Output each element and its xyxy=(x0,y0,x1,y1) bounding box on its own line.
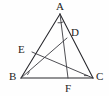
cevian-EC xyxy=(32,52,93,78)
geometry-canvas xyxy=(0,0,109,96)
vertex-label-A: A xyxy=(56,1,64,12)
side-AB xyxy=(21,14,60,78)
cevian-BD xyxy=(21,38,67,78)
cevian-AF xyxy=(60,14,68,78)
vertex-label-B: B xyxy=(9,71,16,82)
vertex-label-E: E xyxy=(18,44,25,55)
side-AC xyxy=(60,14,93,78)
geometry-figure: A B C D E F xyxy=(0,0,109,96)
vertex-label-F: F xyxy=(65,83,71,94)
vertex-label-C: C xyxy=(96,71,103,82)
vertex-label-D: D xyxy=(71,27,79,38)
